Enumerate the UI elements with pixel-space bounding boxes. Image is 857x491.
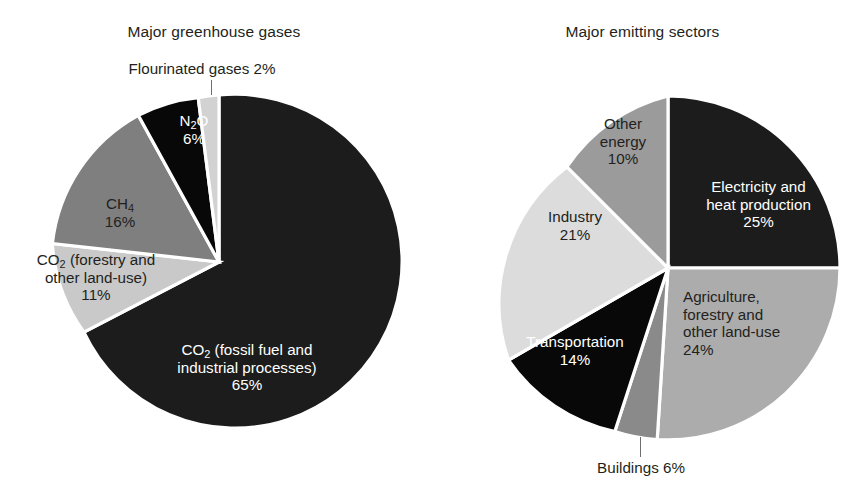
leader-line-buildings	[640, 437, 641, 457]
label-flourinated-gases-text: Flourinated gases 2%	[129, 60, 276, 77]
label-buildings-text: Buildings 6%	[597, 459, 685, 476]
chart-panel-major-emitting-sectors: Major emitting sectors Other energy 10% …	[428, 0, 857, 491]
label-flourinated-gases: Flourinated gases 2%	[0, 60, 404, 77]
leader-line-flourinated-gases	[211, 80, 212, 95]
chart-panel-major-greenhouse-gases: Major greenhouse gases Flourinated gases…	[0, 0, 428, 491]
pie-chart-major-emitting-sectors	[428, 0, 857, 491]
greenhouse-gas-pie-charts-figure: Major greenhouse gases Flourinated gases…	[0, 0, 857, 491]
pie-slice-agriculture-forestry-other-land-use[interactable]	[657, 268, 840, 440]
label-buildings: Buildings 6%	[556, 459, 726, 476]
pie-slice-electricity-and-heat-production[interactable]	[668, 96, 840, 268]
